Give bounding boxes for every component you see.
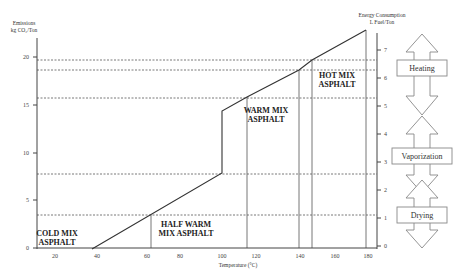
x-axis-title: Temperature (°C) — [219, 262, 258, 269]
tick-label: 120 — [252, 253, 261, 259]
region-half-warm: MIX ASPHALT — [158, 229, 214, 238]
tick-label: 5 — [384, 103, 387, 109]
region-cold-mix: COLD MIX — [36, 229, 78, 238]
tick-label: 40 — [94, 253, 100, 259]
tick-label: 5 — [26, 197, 29, 203]
emissions-line — [92, 30, 366, 249]
tick-label: 20 — [52, 253, 58, 259]
tick-label: 80 — [177, 253, 183, 259]
tick-label: 0 — [26, 245, 29, 251]
tick-label: 0 — [384, 243, 387, 249]
left-axis-unit: kg CO₂/Ton — [11, 27, 38, 33]
vaporization-label: Vaporization — [402, 152, 443, 161]
tick-label: 100 — [218, 253, 227, 259]
region-hot-mix: HOT MIX — [319, 71, 355, 80]
tick-label: 4 — [384, 131, 387, 137]
left-tick-labels: 0 5 10 15 20 — [23, 54, 29, 251]
tick-label: 20 — [23, 54, 29, 60]
right-tick-labels: 0 1 2 3 4 5 6 7 — [384, 47, 387, 249]
tick-label: 3 — [384, 159, 387, 165]
right-axis-unit: L Fuel/Ton — [370, 19, 395, 25]
tick-label: 10 — [23, 150, 29, 156]
heating-label: Heating — [409, 64, 434, 73]
region-cold-mix: ASPHALT — [38, 238, 76, 247]
right-axis-title: Energy Consumption — [359, 12, 406, 18]
tick-label: 140 — [296, 253, 305, 259]
region-warm-mix: WARM MIX — [244, 106, 289, 115]
region-hot-mix: ASPHALT — [318, 80, 356, 89]
tick-label: 6 — [384, 75, 387, 81]
tick-label: 160 — [331, 253, 340, 259]
chart-canvas: 0 5 10 15 20 0 1 2 3 4 5 6 7 20 40 60 80… — [0, 0, 456, 280]
tick-label: 15 — [23, 102, 29, 108]
tick-label: 1 — [384, 215, 387, 221]
region-half-warm: HALF WARM — [161, 220, 211, 229]
region-labels: COLD MIX ASPHALT HALF WARM MIX ASPHALT W… — [36, 71, 356, 247]
tick-label: 7 — [384, 47, 387, 53]
drying-label: Drying — [411, 211, 434, 220]
region-warm-mix: ASPHALT — [247, 115, 285, 124]
tick-label: 180 — [364, 253, 373, 259]
axes — [33, 33, 381, 249]
tick-label: 2 — [384, 187, 387, 193]
chart: 0 5 10 15 20 0 1 2 3 4 5 6 7 20 40 60 80… — [0, 0, 456, 280]
left-axis-title: Emissions — [13, 20, 36, 26]
tick-label: 60 — [144, 253, 150, 259]
x-tick-labels: 20 40 60 80 100 120 140 160 180 — [52, 253, 373, 259]
